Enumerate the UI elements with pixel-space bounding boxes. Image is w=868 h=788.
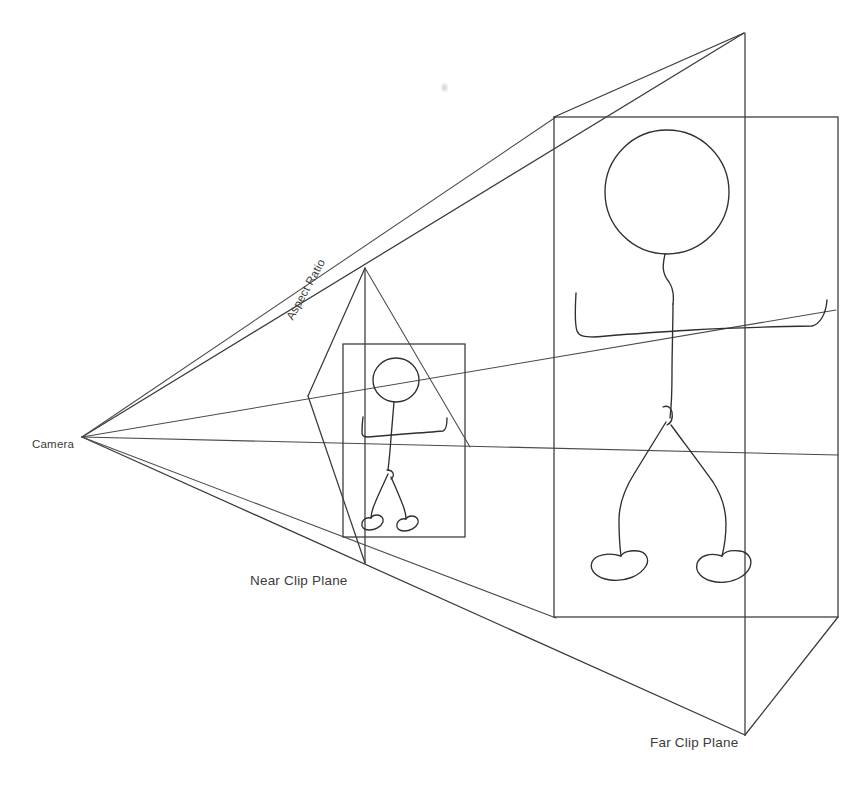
far-figure-head (605, 130, 729, 254)
near-clip-plane-shape (308, 268, 470, 563)
frustum-edge-bottom (82, 437, 745, 735)
label-far-clip-plane: Far Clip Plane (650, 735, 738, 750)
far-viewport-rect (554, 117, 838, 617)
far-figure-foot-left (591, 551, 647, 581)
far-plane-edge-right-bottom (745, 617, 838, 735)
near-figure-arms (362, 417, 447, 437)
near-figure-spine (388, 402, 394, 470)
label-near-clip-plane: Near Clip Plane (250, 573, 348, 588)
far-figure-arms (575, 293, 827, 337)
far-clip-plane-shape (554, 33, 838, 735)
near-figure-leg-right (391, 477, 406, 519)
frustum-drawing-canvas (0, 0, 868, 788)
far-plane-edge-left-top (554, 33, 744, 117)
far-figure-leg-left (619, 422, 666, 556)
scan-smudge-artifact (440, 82, 449, 93)
near-figure-head (373, 358, 419, 402)
sight-line-lower-right (82, 437, 838, 455)
near-plane-edge-upper-right (365, 268, 470, 447)
label-camera: Camera (32, 438, 74, 450)
far-figure-neck (663, 254, 673, 304)
far-figure-leg-right (671, 425, 726, 556)
frustum-diagram: Camera Aspect Ratio Near Clip Plane Far … (0, 0, 868, 788)
near-plane-edge-upper-left (308, 268, 365, 396)
far-figure-foot-right (697, 551, 751, 583)
far-rect-outline (554, 117, 838, 617)
frustum-edge-lower-inner (82, 437, 556, 618)
near-figure-leg-left (371, 474, 388, 518)
far-stick-figure (575, 130, 827, 582)
near-plane-edge-lower-left (308, 396, 365, 563)
frustum-edges (82, 33, 838, 735)
near-figure-foot-right (397, 516, 418, 531)
frustum-edge-top (82, 33, 744, 437)
far-figure-spine (670, 304, 673, 418)
